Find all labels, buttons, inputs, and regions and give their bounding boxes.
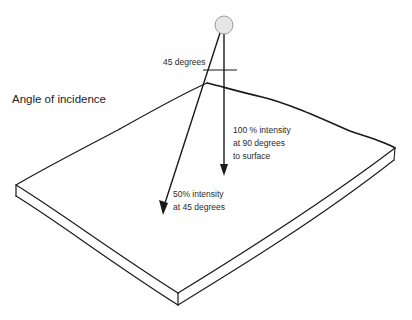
arrowhead-icon xyxy=(220,164,228,176)
diagram-title: Angle of incidence xyxy=(12,93,106,105)
vertical-ray-label-line1: 100 % intensity xyxy=(233,124,291,137)
angled-ray-label-line1: 50% intensity xyxy=(173,188,225,201)
slab-right-corner xyxy=(394,148,395,160)
angle-of-incidence-diagram xyxy=(0,0,412,320)
arrowhead-icon xyxy=(159,200,168,215)
vertical-ray-90-degrees xyxy=(220,34,228,176)
vertical-ray-label: 100 % intensity at 90 degrees to surface xyxy=(233,124,291,163)
light-source-icon xyxy=(215,16,233,34)
slab-front-left-edge-top xyxy=(16,185,178,293)
slab-front-left-edge-bottom xyxy=(16,196,178,305)
angle-label: 45 degrees xyxy=(163,56,206,69)
slab-front-right-edge-top xyxy=(178,148,395,293)
angled-ray-label-line2: at 45 degrees xyxy=(173,201,225,214)
vertical-ray-label-line2: at 90 degrees xyxy=(233,137,291,150)
slab-front-right-edge-bottom xyxy=(178,160,394,305)
angled-ray-label: 50% intensity at 45 degrees xyxy=(173,188,225,214)
vertical-ray-label-line3: to surface xyxy=(233,150,291,163)
